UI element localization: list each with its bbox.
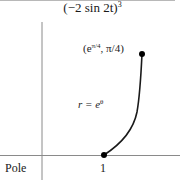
curve-equation-label: r = eθ bbox=[78, 98, 103, 110]
start-point-dot bbox=[101, 152, 107, 158]
point-label-exponent: π/4 bbox=[92, 42, 101, 50]
point-label-rest: , π/4) bbox=[101, 42, 124, 54]
polar-plot bbox=[0, 0, 185, 182]
end-point-dot bbox=[139, 51, 145, 57]
end-point-label: (eπ/4, π/4) bbox=[83, 42, 124, 54]
curve-label-lhs: r = e bbox=[78, 98, 100, 110]
point-label-open: (e bbox=[83, 42, 92, 54]
curve-label-exponent: θ bbox=[100, 98, 103, 106]
pole-label: Pole bbox=[5, 162, 26, 174]
tick-label-one: 1 bbox=[100, 162, 106, 174]
spiral-curve bbox=[104, 54, 142, 155]
